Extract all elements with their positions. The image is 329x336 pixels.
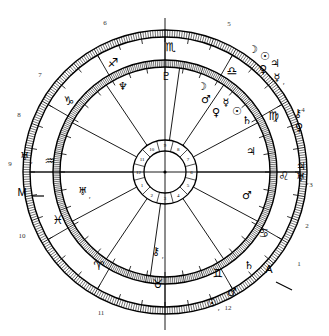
planet-glyph-moon: ☽ xyxy=(197,80,207,93)
planet-glyph-uranus-outer-2: ♅ xyxy=(20,150,30,163)
planet-glyph-jupiter-outer: ♃ xyxy=(270,57,280,70)
ascendant-marker: A xyxy=(265,263,273,275)
outer-house-number: 9 xyxy=(8,160,12,168)
inner-house-number: 4 xyxy=(177,193,180,198)
sign-glyph-leo: ♌ xyxy=(279,169,290,183)
planet-glyph-saturn: ♄ xyxy=(242,114,252,127)
planet-glyph-sun: ☉ xyxy=(232,105,242,118)
inner-house-number: 5 xyxy=(187,183,190,188)
sign-glyph-aquarius: ♒ xyxy=(45,154,56,168)
outer-house-number: 3 xyxy=(309,181,313,189)
planet-glyph-neptune: ♆ xyxy=(118,80,128,93)
chart-center-dot xyxy=(163,170,166,173)
outer-house-number: 7 xyxy=(38,71,42,79)
planet-glyph-venus-outer-2: ♀ xyxy=(295,121,303,134)
planet-glyph-uranus: ♅ xyxy=(78,185,88,198)
inner-house-number: 12 xyxy=(136,170,142,175)
retrograde-marker: r xyxy=(162,255,164,260)
outer-house-number: 11 xyxy=(98,309,105,317)
sign-glyph-pisces: ♓ xyxy=(53,213,64,227)
planet-glyph-mars-outer: ♂ xyxy=(227,286,237,299)
inner-house-number: 9 xyxy=(164,143,167,148)
axis-stubs xyxy=(32,196,292,290)
sign-glyph-capricorn: ♑ xyxy=(64,94,75,108)
planet-glyph-venus: ♀ xyxy=(212,106,220,119)
inner-house-number: 8 xyxy=(177,147,180,152)
retrograde-marker: r xyxy=(218,307,220,312)
sign-glyph-sagittarius: ♐ xyxy=(108,56,119,70)
outer-house-number: 2 xyxy=(305,222,309,230)
planet-glyph-mercury-outer: ☿ xyxy=(274,71,281,84)
planet-glyph-mars-2: ♂ xyxy=(242,189,252,202)
retrograde-marker: r xyxy=(89,195,91,200)
outer-house-number: 5 xyxy=(227,20,231,28)
inner-house-number: 11 xyxy=(140,157,145,162)
planet-glyph-sun-outer-2: ☉ xyxy=(207,297,217,310)
outer-house-number: 6 xyxy=(103,19,107,27)
retrograde-marker: r xyxy=(31,160,33,165)
sign-glyph-scorpio: ♏ xyxy=(166,40,177,54)
inner-house-number: 7 xyxy=(187,157,190,162)
retrograde-marker: r xyxy=(283,81,285,86)
outer-house-number: 10 xyxy=(19,232,27,240)
inner-house-number: 1 xyxy=(141,183,144,188)
planet-glyph-moon-outer: ☽ xyxy=(248,43,258,56)
midheaven-marker: M xyxy=(17,186,26,198)
planet-glyph-mercury: ☿ xyxy=(223,96,230,109)
inner-house-number: 2 xyxy=(151,193,154,198)
outer-house-number: 12 xyxy=(225,304,233,312)
chart-canvas: 123456789101112 123456789101112 ♏♎♍♌♋♊♉♈… xyxy=(0,0,329,336)
astrology-chart: 123456789101112 123456789101112 ♏♎♍♌♋♊♉♈… xyxy=(0,0,329,336)
sign-glyph-libra: ♎ xyxy=(227,64,238,78)
inner-house-number: 10 xyxy=(149,147,155,152)
outer-house-number: 1 xyxy=(297,260,301,268)
sign-glyph-gemini: ♊ xyxy=(213,266,224,280)
inner-planet-group: ♇☽♂☿♀☉♄♃♂⚷r♆♅r xyxy=(78,70,256,260)
planet-glyph-mars: ♂ xyxy=(201,93,211,106)
planet-glyph-saturn-outer: ♄ xyxy=(244,259,254,272)
sign-glyph-aries: ♈ xyxy=(94,259,105,273)
inner-house-number: 3 xyxy=(164,196,167,201)
planet-glyph-uranus-outer: ♅ xyxy=(296,171,306,184)
sign-glyph-virgo: ♍ xyxy=(269,109,280,123)
outer-house-number: 8 xyxy=(17,111,21,119)
sign-glyph-taurus: ♉ xyxy=(153,277,164,291)
planet-glyph-chiron: ⚷ xyxy=(152,245,160,258)
planet-glyph-chiron-outer: ⚷ xyxy=(294,107,302,120)
planet-glyph-pluto: ♇ xyxy=(161,70,171,83)
sign-glyph-cancer: ♋ xyxy=(259,226,270,240)
planet-glyph-sun-outer: ☉ xyxy=(260,50,270,63)
planet-glyph-venus-outer: ♀ xyxy=(259,63,267,76)
planet-glyph-jupiter: ♃ xyxy=(246,145,256,158)
